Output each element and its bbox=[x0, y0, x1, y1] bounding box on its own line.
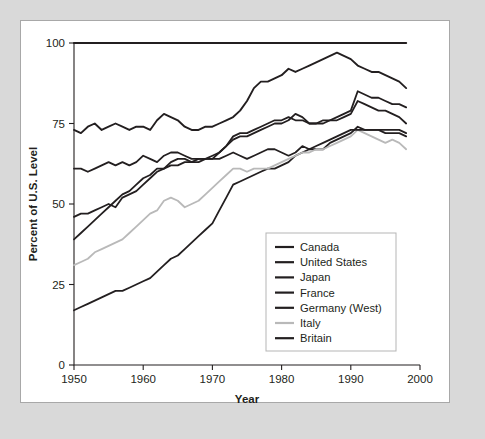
x-tick-label: 1950 bbox=[61, 373, 87, 385]
y-tick-label: 50 bbox=[52, 198, 65, 210]
y-tick-label: 25 bbox=[52, 279, 65, 291]
page-background: 0255075100195019601970198019902000YearPe… bbox=[0, 0, 485, 439]
legend-label-6[interactable]: Britain bbox=[300, 332, 332, 344]
x-tick-label: 2000 bbox=[407, 373, 433, 385]
legend-label-4[interactable]: Germany (West) bbox=[300, 302, 382, 314]
y-axis-title-group: Percent of U.S. Level bbox=[27, 147, 39, 261]
figure-card: 0255075100195019601970198019902000YearPe… bbox=[20, 20, 450, 403]
x-tick-label: 1990 bbox=[338, 373, 364, 385]
line-chart: 0255075100195019601970198019902000YearPe… bbox=[21, 21, 451, 404]
x-tick-label: 1980 bbox=[269, 373, 295, 385]
x-tick-label: 1960 bbox=[130, 373, 156, 385]
legend-label-1[interactable]: United States bbox=[300, 256, 368, 268]
x-tick-label: 1970 bbox=[200, 373, 226, 385]
x-axis-title: Year bbox=[235, 393, 260, 404]
y-tick-label: 100 bbox=[46, 37, 65, 49]
y-axis-title: Percent of U.S. Level bbox=[27, 147, 39, 261]
series-line-germany-west bbox=[74, 91, 406, 239]
y-tick-label: 75 bbox=[52, 118, 65, 130]
series-line-france bbox=[74, 101, 406, 217]
legend-label-2[interactable]: Japan bbox=[300, 271, 330, 283]
legend-label-5[interactable]: Italy bbox=[300, 317, 321, 329]
legend-label-0[interactable]: Canada bbox=[300, 241, 340, 253]
legend-label-3[interactable]: France bbox=[300, 287, 335, 299]
y-tick-label: 0 bbox=[59, 359, 65, 371]
